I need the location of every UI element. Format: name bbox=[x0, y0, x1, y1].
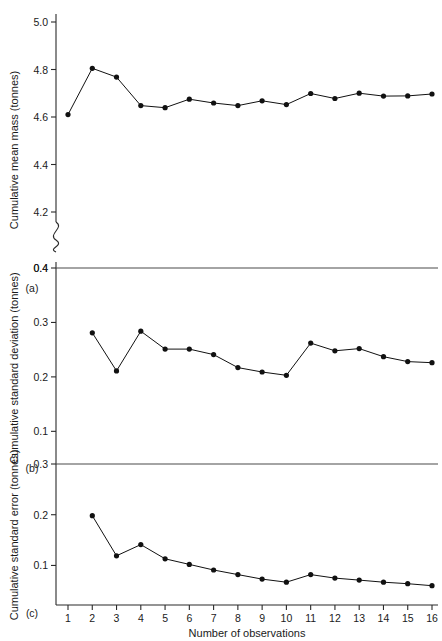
y-tick-label-c-1: 0.2 bbox=[33, 509, 48, 521]
panel-a: 5.04.84.64.44.20.4Cumulative mean mass (… bbox=[8, 14, 438, 294]
data-point-mean-mass-10 bbox=[284, 102, 289, 107]
data-point-mean-mass-4 bbox=[138, 103, 143, 108]
data-point-mean-mass-12 bbox=[332, 96, 337, 101]
cumulative-statistics-figure: 5.04.84.64.44.20.4Cumulative mean mass (… bbox=[0, 0, 442, 641]
data-point-mean-mass-3 bbox=[114, 75, 119, 80]
data-point-mean-mass-14 bbox=[381, 94, 386, 99]
x-tick-label-3: 3 bbox=[114, 612, 120, 624]
data-point-std-error-6 bbox=[187, 562, 192, 567]
series-line-std-dev bbox=[92, 331, 432, 375]
data-point-std-dev-13 bbox=[357, 346, 362, 351]
data-point-std-dev-11 bbox=[308, 341, 313, 346]
panel-label-c: (c) bbox=[26, 607, 38, 619]
data-point-mean-mass-13 bbox=[357, 91, 362, 96]
data-point-mean-mass-16 bbox=[429, 91, 434, 96]
y-tick-label-a-2: 4.6 bbox=[33, 111, 48, 123]
y-axis-title-a: Cumulative mean mass (tonnes) bbox=[8, 71, 20, 229]
data-point-std-dev-8 bbox=[235, 365, 240, 370]
x-tick-label-10: 10 bbox=[281, 612, 293, 624]
data-point-std-error-8 bbox=[235, 572, 240, 577]
data-point-std-error-2 bbox=[90, 513, 95, 518]
data-point-std-dev-4 bbox=[138, 329, 143, 334]
x-tick-label-1: 1 bbox=[65, 612, 71, 624]
x-tick-label-4: 4 bbox=[138, 612, 144, 624]
x-tick-label-15: 15 bbox=[402, 612, 414, 624]
y-tick-label-c-0: 0.3 bbox=[33, 458, 48, 470]
series-line-std-error bbox=[92, 516, 432, 586]
data-point-mean-mass-1 bbox=[65, 112, 70, 117]
data-point-mean-mass-5 bbox=[163, 105, 168, 110]
data-point-std-dev-2 bbox=[90, 330, 95, 335]
data-point-mean-mass-2 bbox=[90, 66, 95, 71]
y-tick-label-a-3: 4.4 bbox=[33, 159, 48, 171]
panel-b: 0.40.30.20.1Cumulative standard deviatio… bbox=[8, 262, 438, 474]
y-tick-label-a-0: 5.0 bbox=[33, 16, 48, 28]
x-tick-label-12: 12 bbox=[329, 612, 341, 624]
x-tick-label-5: 5 bbox=[162, 612, 168, 624]
data-point-std-dev-3 bbox=[114, 368, 119, 373]
y-tick-label-a-4: 4.2 bbox=[33, 206, 48, 218]
data-point-std-dev-16 bbox=[429, 360, 434, 365]
data-point-std-error-12 bbox=[332, 576, 337, 581]
data-point-std-error-14 bbox=[381, 580, 386, 585]
x-tick-label-14: 14 bbox=[378, 612, 390, 624]
y-tick-label-c-2: 0.1 bbox=[33, 559, 48, 571]
y-tick-label-a-1: 4.8 bbox=[33, 64, 48, 76]
data-point-mean-mass-7 bbox=[211, 100, 216, 105]
x-tick-label-9: 9 bbox=[259, 612, 265, 624]
axis-break-icon bbox=[53, 222, 58, 252]
x-tick-label-6: 6 bbox=[186, 612, 192, 624]
data-point-std-dev-5 bbox=[163, 347, 168, 352]
x-tick-label-16: 16 bbox=[426, 612, 438, 624]
x-tick-label-2: 2 bbox=[89, 612, 95, 624]
y-axis-title-b: Cumulative standard deviation (tonnes) bbox=[8, 272, 20, 463]
data-point-std-dev-14 bbox=[381, 354, 386, 359]
series-line-mean-mass bbox=[68, 68, 432, 114]
data-point-std-error-9 bbox=[260, 577, 265, 582]
data-point-mean-mass-8 bbox=[235, 103, 240, 108]
data-point-std-dev-9 bbox=[260, 369, 265, 374]
x-tick-label-13: 13 bbox=[353, 612, 365, 624]
data-point-mean-mass-11 bbox=[308, 91, 313, 96]
data-point-std-dev-6 bbox=[187, 347, 192, 352]
y-tick-label-b-1: 0.3 bbox=[33, 316, 48, 328]
x-tick-label-7: 7 bbox=[211, 612, 217, 624]
data-point-mean-mass-6 bbox=[187, 97, 192, 102]
y-tick-label-b-2: 0.2 bbox=[33, 371, 48, 383]
data-point-std-error-15 bbox=[405, 581, 410, 586]
panel-label-a: (a) bbox=[26, 282, 39, 294]
data-point-std-error-3 bbox=[114, 553, 119, 558]
y-tick-label-b-3: 0.1 bbox=[33, 425, 48, 437]
data-point-std-error-11 bbox=[308, 572, 313, 577]
data-point-std-dev-7 bbox=[211, 352, 216, 357]
data-point-std-error-7 bbox=[211, 567, 216, 572]
data-point-std-dev-12 bbox=[332, 348, 337, 353]
data-point-std-dev-15 bbox=[405, 359, 410, 364]
y-axis-title-c: Cumulative standard error (tonnes) bbox=[8, 450, 20, 621]
x-tick-label-8: 8 bbox=[235, 612, 241, 624]
x-axis-title: Number of observations bbox=[189, 627, 306, 639]
data-point-mean-mass-15 bbox=[405, 93, 410, 98]
data-point-std-dev-10 bbox=[284, 373, 289, 378]
x-tick-label-11: 11 bbox=[305, 612, 316, 624]
data-point-std-error-10 bbox=[284, 580, 289, 585]
data-point-mean-mass-9 bbox=[260, 98, 265, 103]
data-point-std-error-13 bbox=[357, 578, 362, 583]
figure-canvas: 5.04.84.64.44.20.4Cumulative mean mass (… bbox=[0, 0, 442, 641]
data-point-std-error-4 bbox=[138, 542, 143, 547]
data-point-std-error-5 bbox=[163, 556, 168, 561]
y-tick-label-b-0: 0.4 bbox=[33, 262, 48, 274]
data-point-std-error-16 bbox=[429, 583, 434, 588]
panel-c: 0.30.20.1Cumulative standard error (tonn… bbox=[8, 450, 438, 639]
